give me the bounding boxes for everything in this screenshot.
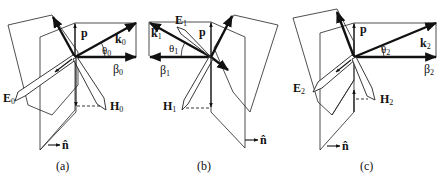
beta-label: β1 <box>160 63 170 78</box>
p-label: p <box>81 26 88 40</box>
beta-label: β2 <box>424 62 434 77</box>
caption-a: (a) <box>56 159 69 173</box>
caption-c: (c) <box>360 159 373 173</box>
tilted-plane <box>214 15 278 112</box>
H-label: H2 <box>380 92 393 107</box>
panel-a: p k0 θ0 β0 E0 H0 n̂ (a) <box>3 15 136 173</box>
theta-label: θ1 <box>169 42 178 56</box>
k-label: k0 <box>115 32 126 47</box>
theta-angle-arc <box>181 42 185 57</box>
p-label: p <box>199 25 206 39</box>
k-label: k2 <box>420 36 431 51</box>
caption-b: (b) <box>197 159 211 173</box>
beta-label: β0 <box>113 62 123 77</box>
n-hat-label: n̂ <box>62 138 69 152</box>
panel-c: p k2 θ2 β2 E2 H2 n̂ (c) <box>293 9 436 173</box>
theta-label: θ0 <box>102 44 111 58</box>
plane-of-incidence <box>211 22 245 148</box>
E-label: E1 <box>175 13 187 28</box>
E-label: E2 <box>293 81 305 96</box>
plane-normal-arrow <box>211 16 232 57</box>
plane-normal-arrow <box>337 12 354 57</box>
n-hat-label: n̂ <box>260 133 267 147</box>
E-vector-arrow <box>177 27 213 59</box>
theta-label: θ2 <box>381 43 390 57</box>
H-label: H1 <box>163 99 176 114</box>
n-hat-label: n̂ <box>342 139 349 153</box>
H-label: H0 <box>110 99 123 114</box>
panel-b: E1 p k1 θ1 β1 H1 n̂ (b) <box>149 13 278 173</box>
transmitted-direction-arrow <box>211 57 228 70</box>
plane-normal-arrow <box>53 17 75 57</box>
H-vector-arrow <box>182 57 213 110</box>
p-label: p <box>360 22 367 36</box>
E-label: E0 <box>3 91 15 106</box>
H-vector-arrow <box>352 57 375 100</box>
lower-plane-edge <box>332 80 354 115</box>
wave-vector-diagram-figure: p k0 θ0 β0 E0 H0 n̂ (a) <box>0 0 443 179</box>
